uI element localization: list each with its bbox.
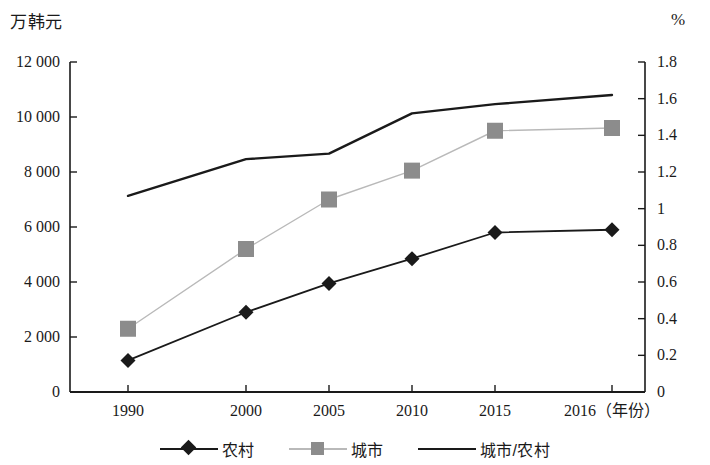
legend-item-label: 农村	[222, 437, 255, 461]
square-marker-icon	[289, 442, 347, 456]
data-point-diamond-marker	[605, 222, 620, 237]
data-point-diamond-marker	[322, 276, 337, 291]
series-line-农村	[128, 230, 612, 361]
legend-item-label: 城市	[351, 437, 384, 461]
chart-legend: 农村城市城市/农村	[0, 437, 710, 461]
line-marker-icon	[418, 442, 476, 456]
square-marker-glyph	[311, 442, 324, 455]
data-point-diamond-marker	[488, 225, 503, 240]
data-point-square-marker	[238, 241, 254, 257]
legend-item-label: 城市/农村	[480, 437, 551, 461]
diamond-marker-icon	[160, 442, 218, 456]
plot-area	[0, 0, 710, 465]
legend-item[interactable]: 农村	[160, 437, 255, 461]
legend-item[interactable]: 城市	[289, 437, 384, 461]
data-point-square-marker	[604, 120, 620, 136]
data-point-diamond-marker	[121, 353, 136, 368]
data-point-square-marker	[321, 192, 337, 208]
series-line-城市	[128, 128, 612, 329]
series-line-城市/农村	[128, 95, 612, 196]
data-point-square-marker	[120, 321, 136, 337]
data-point-square-marker	[404, 163, 420, 179]
data-point-diamond-marker	[405, 251, 420, 266]
data-point-square-marker	[487, 123, 503, 139]
chart-figure: 万韩元 % 02 0004 0006 0008 00010 00012 000 …	[0, 0, 710, 465]
data-point-diamond-marker	[239, 305, 254, 320]
legend-item[interactable]: 城市/农村	[418, 437, 551, 461]
diamond-marker-glyph	[180, 440, 196, 456]
